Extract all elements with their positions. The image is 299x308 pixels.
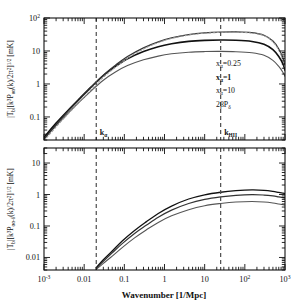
bottom-panel-curves: [96, 190, 285, 269]
x-ticklabel: 0.1: [119, 275, 129, 284]
series-x-a-10: [44, 32, 285, 139]
series-2bp-d: [44, 32, 285, 141]
y-ticklabel: 10: [32, 47, 40, 56]
top-panel-frame: [44, 18, 285, 140]
x-ticklabel: 0.01: [77, 275, 91, 284]
y-ticklabel: 0.01: [26, 253, 40, 262]
top-panel: 1021010.1: [29, 13, 285, 141]
y-ticklabel: 10: [32, 159, 40, 168]
bottom-panel-ticks: [44, 148, 285, 270]
x-ticklabel: 1: [162, 275, 166, 284]
top-panel-ylabel: |Tb|[k3Pαα(k)/2π2]1/2 [mK]: [6, 40, 16, 118]
legend: xα=0.25xα=1xα=102βPδ: [216, 59, 241, 110]
x-ticklabel: 103: [280, 274, 291, 284]
y-ticklabel: 1: [36, 191, 40, 200]
series-x-a-0-25: [44, 51, 285, 138]
y-ticklabel: 1: [36, 80, 40, 89]
y-ticklabel: 0.1: [30, 222, 40, 231]
top-panel-ticks: [44, 18, 285, 140]
legend-entry-1: xα=1: [216, 73, 231, 83]
bottom-panel-vlines: [96, 148, 220, 270]
bottom-panel-y-ticklabels: 1010.10.01: [26, 159, 40, 262]
top-panel-y-ticklabels: 1021010.1: [29, 13, 40, 122]
vline-labels: kαkHII: [100, 128, 237, 138]
svg-text:|Tb|[k3Pαα(k)/2π2]1/2 [mK]: |Tb|[k3Pαα(k)/2π2]1/2 [mK]: [6, 40, 16, 118]
x-ticklabels: 10-30.010.1110102103: [38, 274, 291, 284]
vline-label-k-alpha: kα: [100, 128, 107, 138]
figure-container: 1021010.1 |Tb|[k3Pαα(k)/2π2]1/2 [mK] kαk…: [0, 0, 299, 308]
x-axis-title: Wavenumber [1/Mpc]: [122, 290, 207, 300]
top-panel-vlines: [96, 18, 220, 140]
x-ticklabel: 10-3: [38, 274, 51, 284]
top-panel-curves: [44, 32, 285, 141]
bottom-panel-frame: [44, 148, 285, 270]
svg-text:|Tb|[k3Pαα-δ(k)/2π2]1/2 [mK]: |Tb|[k3Pαα-δ(k)/2π2]1/2 [mK]: [6, 168, 16, 250]
series-x-a-0-25: [96, 201, 285, 269]
x-ticklabel: 10: [201, 275, 209, 284]
y-ticklabel: 102: [29, 13, 40, 23]
series-x-a-1: [96, 195, 285, 269]
bottom-panel-ylabel: |Tb|[k3Pαα-δ(k)/2π2]1/2 [mK]: [6, 168, 16, 250]
bottom-panel: 1010.10.01: [26, 148, 285, 270]
vline-label-k-HII: kHII: [224, 128, 237, 138]
y-ticklabel: 0.1: [30, 113, 40, 122]
legend-entry-3: 2βPδ: [216, 100, 231, 110]
plot-svg: 1021010.1 |Tb|[k3Pαα(k)/2π2]1/2 [mK] kαk…: [0, 0, 299, 308]
x-ticklabel: 102: [239, 274, 250, 284]
legend-entry-0: xα=0.25: [216, 59, 241, 69]
legend-entry-2: xα=10: [216, 86, 235, 96]
